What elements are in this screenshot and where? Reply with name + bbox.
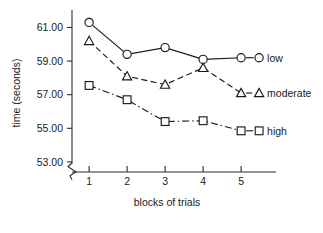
x-tick-label: 3	[162, 175, 168, 187]
marker-square	[85, 82, 93, 90]
marker-circle	[237, 54, 245, 62]
x-axis-ticks: 12345	[86, 166, 244, 187]
y-tick-label: 57.00	[37, 88, 63, 100]
legend-marker-triangle	[255, 88, 264, 96]
marker-triangle	[237, 88, 246, 96]
x-tick-label: 1	[86, 175, 92, 187]
x-tick-label: 4	[200, 175, 206, 187]
marker-square	[123, 96, 131, 104]
y-axis-label: time (seconds)	[10, 59, 22, 128]
marker-circle	[161, 44, 169, 52]
series-lines	[89, 22, 241, 130]
legend: lowmoderatehigh	[246, 52, 312, 137]
legend-marker-circle	[255, 54, 263, 62]
marker-square	[237, 127, 245, 135]
series-line-low	[89, 22, 241, 59]
x-tick-label: 2	[124, 175, 130, 187]
marker-circle	[85, 18, 93, 26]
x-tick-label: 5	[238, 175, 244, 187]
y-tick-label: 61.00	[37, 21, 63, 33]
y-tick-label: 59.00	[37, 55, 63, 67]
marker-square	[199, 117, 207, 125]
y-axis-break-icon	[68, 163, 76, 180]
chart-canvas: 53.0055.0057.0059.0061.00 12345 lowmoder…	[0, 0, 323, 233]
marker-triangle	[123, 72, 132, 80]
marker-circle	[123, 50, 131, 58]
x-axis-label: blocks of trials	[134, 196, 201, 208]
legend-marker-square	[255, 127, 263, 135]
legend-label-low: low	[267, 52, 283, 64]
marker-triangle	[85, 36, 94, 44]
y-tick-label: 55.00	[37, 122, 63, 134]
line-chart: 53.0055.0057.0059.0061.00 12345 lowmoder…	[0, 0, 323, 233]
y-axis-ticks: 53.0055.0057.0059.0061.00	[37, 21, 72, 167]
series-markers	[85, 18, 246, 134]
legend-label-high: high	[267, 125, 287, 137]
marker-triangle	[199, 63, 208, 71]
marker-square	[161, 118, 169, 126]
legend-label-moderate: moderate	[267, 87, 312, 99]
y-tick-label: 53.00	[37, 156, 63, 168]
